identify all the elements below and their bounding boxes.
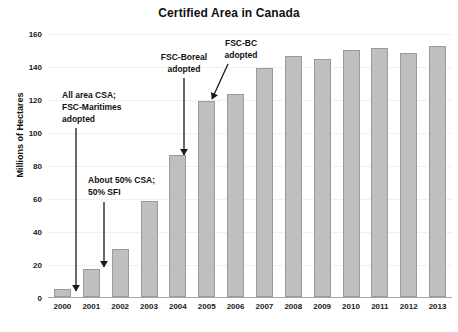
gridline — [48, 199, 452, 200]
y-tick-label: 140 — [29, 63, 42, 72]
y-tick-label: 20 — [33, 261, 42, 270]
bar-2005[interactable] — [198, 101, 215, 297]
plot-area: 020406080100120140160 — [48, 34, 452, 298]
gridline — [48, 34, 452, 35]
annotation-4: FSC-BC adopted — [212, 37, 270, 61]
y-tick-label: 0 — [38, 294, 42, 303]
gridline — [48, 166, 452, 167]
annotation-1: All area CSA; FSC-Maritimes adopted — [62, 89, 158, 125]
bar-2007[interactable] — [256, 68, 273, 297]
bar-2001[interactable] — [83, 269, 100, 297]
bar-2000[interactable] — [54, 289, 71, 297]
y-tick-label: 120 — [29, 96, 42, 105]
gridline — [48, 265, 452, 266]
y-tick-label: 160 — [29, 30, 42, 39]
annotation-2: About 50% CSA; 50% SFI — [88, 174, 192, 198]
bar-chart: Certified Area in Canada Millions of Hec… — [0, 0, 458, 332]
bar-2006[interactable] — [227, 94, 244, 297]
y-tick-label: 40 — [33, 228, 42, 237]
bar-2012[interactable] — [400, 53, 417, 297]
gridline — [48, 232, 452, 233]
bar-2003[interactable] — [141, 201, 158, 297]
bar-2008[interactable] — [285, 56, 302, 297]
y-axis-title: Millions of Hectares — [15, 75, 25, 195]
y-tick-label: 80 — [33, 162, 42, 171]
x-tick-label-2013: 2013 — [418, 302, 458, 311]
bar-2009[interactable] — [314, 59, 331, 297]
annotation-3: FSC-Boreal adopted — [150, 51, 218, 75]
x-axis-line — [48, 297, 452, 298]
chart-title: Certified Area in Canada — [0, 6, 458, 20]
bar-2011[interactable] — [371, 48, 388, 297]
bar-2010[interactable] — [343, 50, 360, 298]
y-tick-label: 60 — [33, 195, 42, 204]
bar-2002[interactable] — [112, 249, 129, 297]
bar-2013[interactable] — [429, 46, 446, 297]
gridline — [48, 67, 452, 68]
y-tick-label: 100 — [29, 129, 42, 138]
gridline — [48, 133, 452, 134]
